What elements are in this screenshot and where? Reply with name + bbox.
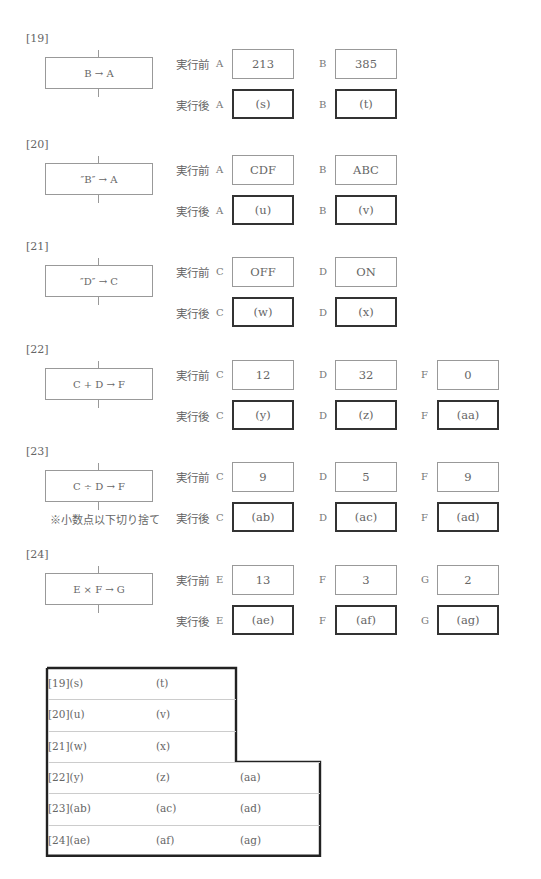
table-divider	[48, 731, 236, 732]
answer-cell[interactable]: (t)	[156, 677, 168, 689]
table-divider	[48, 762, 320, 763]
answer-cell[interactable]: (ac)	[156, 802, 176, 814]
answer-cell[interactable]: (z)	[156, 771, 170, 783]
table-divider	[48, 825, 320, 826]
answer-cell[interactable]: [22](y)	[48, 771, 84, 783]
table-divider	[48, 793, 320, 794]
answer-cell[interactable]: (ag)	[240, 834, 261, 846]
answer-cell[interactable]: (aa)	[240, 771, 261, 783]
answer-cell[interactable]: (v)	[156, 708, 170, 720]
answer-cell[interactable]: (af)	[156, 834, 174, 846]
answer-cell[interactable]: (ad)	[240, 802, 261, 814]
answer-cell[interactable]: [20](u)	[48, 708, 85, 720]
answer-cell[interactable]: [24](ae)	[48, 834, 90, 846]
table-divider	[48, 699, 236, 700]
answer-cell[interactable]: [23](ab)	[48, 802, 91, 814]
answer-cell[interactable]: (x)	[156, 740, 170, 752]
answer-cell[interactable]: [19](s)	[48, 677, 83, 689]
answer-cell[interactable]: [21](w)	[48, 740, 87, 752]
